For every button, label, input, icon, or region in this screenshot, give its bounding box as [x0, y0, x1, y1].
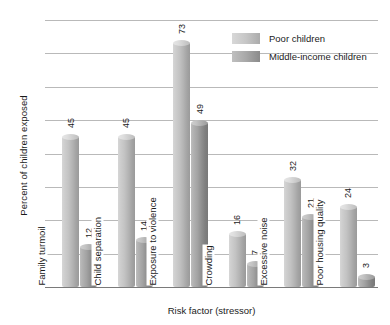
y-axis-title: Percent of children exposed — [18, 41, 29, 271]
x-category-label: Exposure to violence — [147, 196, 159, 285]
bar-body — [229, 234, 246, 287]
bar-chart: Percent of children exposed 010203040506… — [0, 0, 390, 325]
x-category-label: Poor housing quality — [313, 198, 325, 285]
legend-item: Middle-income children — [232, 49, 367, 64]
bar-body — [284, 180, 301, 287]
bar-cap — [118, 134, 135, 140]
bar-value-label: 45 — [66, 118, 75, 128]
bar-body — [173, 43, 190, 287]
bar-cap — [229, 231, 246, 237]
bar-value-label: 45 — [122, 118, 131, 128]
legend-label: Middle-income children — [269, 51, 367, 62]
x-category-label: Child separation — [91, 215, 103, 285]
legend-label: Poor children — [269, 33, 325, 44]
axis-baseline — [45, 287, 378, 288]
bar-cap — [340, 204, 357, 210]
legend: Poor childrenMiddle-income children — [232, 31, 367, 67]
bar-cap — [358, 274, 375, 280]
bar-body — [118, 137, 135, 287]
bar-body — [62, 137, 79, 287]
legend-item: Poor children — [232, 31, 367, 46]
legend-swatch — [232, 51, 260, 62]
bar: 3 — [358, 274, 375, 287]
bar: 45 — [62, 134, 79, 287]
x-axis-title: Risk factor (stressor) — [45, 305, 378, 316]
x-category-label: Excessive noise — [258, 216, 270, 285]
x-category-label: Family turmoil — [36, 225, 48, 285]
bar-value-label: 49 — [195, 104, 204, 114]
bar-value-label: 73 — [177, 24, 186, 34]
bar-value-label: 32 — [288, 161, 297, 171]
bar: 32 — [284, 177, 301, 287]
legend-swatch — [232, 33, 260, 44]
bar-cap — [62, 134, 79, 140]
bar: 73 — [173, 40, 190, 287]
bar-value-label: 3 — [362, 263, 371, 268]
bar-value-label: 16 — [233, 215, 242, 225]
bar-body — [340, 207, 357, 287]
bar-value-label: 24 — [344, 188, 353, 198]
bar: 24 — [340, 204, 357, 287]
x-category-label: Crowding — [202, 244, 214, 285]
bar: 16 — [229, 231, 246, 287]
bar: 45 — [118, 134, 135, 287]
